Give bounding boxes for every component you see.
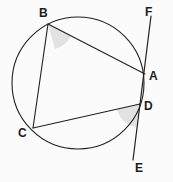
circumscribed-circle (12, 17, 144, 149)
vertex-label-e: E (135, 162, 143, 174)
vertex-label-d: D (144, 100, 153, 112)
vertex-label-b: B (39, 7, 48, 19)
line-fe (133, 16, 151, 160)
vertex-label-f: F (145, 6, 152, 18)
geometry-figure: B F A D C E (0, 0, 173, 182)
chord-ba (48, 24, 145, 74)
angle-cde-shade (117, 104, 140, 127)
angle-abd-shade (48, 24, 71, 49)
vertex-label-c: C (18, 127, 27, 139)
vertex-label-a: A (149, 70, 158, 82)
geometry-diagram-canvas (0, 0, 173, 182)
chord-bc (33, 24, 48, 128)
